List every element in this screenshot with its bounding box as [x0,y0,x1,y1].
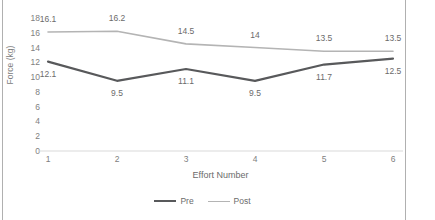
series-line-pre [48,59,393,81]
series-line-post [48,31,393,51]
data-point-label: 16.2 [109,14,126,23]
legend-swatch-pre-icon [154,200,176,202]
legend-swatch-post-icon [208,201,230,202]
chart-legend: PrePost [0,196,405,206]
x-axis-tick-label: 2 [115,154,120,164]
data-point-label: 9.5 [249,89,261,98]
x-axis-title: Effort Number [48,170,393,180]
y-axis-tick-label: 18 [31,14,40,23]
plot-svg [48,18,393,151]
legend-label: Post [234,196,251,206]
y-axis-tick-label: 6 [35,102,40,111]
data-point-label: 13.5 [385,34,402,43]
line-chart-figure: 024681012141618 Force (kg) 12.19.511.19.… [0,0,435,220]
y-axis-tick-label: 8 [35,87,40,96]
x-axis-tick-label: 6 [391,154,396,164]
y-axis-tick-label: 10 [31,73,40,82]
data-point-label: 9.5 [111,89,123,98]
right-border-line [405,0,406,220]
legend-label: Pre [180,196,193,206]
x-axis-tick-label: 3 [184,154,189,164]
data-point-label: 12.5 [385,67,402,76]
y-axis-title: Force (kg) [5,33,15,97]
y-axis-tick-label: 4 [35,117,40,126]
x-axis-tick-label: 4 [253,154,258,164]
data-point-label: 13.5 [316,34,333,43]
data-point-label: 12.1 [40,70,57,79]
x-axis-tick-labels: 123456 [48,154,393,168]
legend-item-post[interactable]: Post [208,196,251,206]
y-axis-tick-label: 14 [31,43,40,52]
y-axis-tick-label: 2 [35,132,40,141]
x-axis-tick-label: 1 [46,154,51,164]
data-point-label: 11.1 [178,77,194,86]
data-point-label: 14 [250,31,259,40]
data-point-label: 11.7 [316,73,332,82]
y-axis-tick-label: 16 [31,28,40,37]
y-axis-tick-label: 12 [31,58,40,67]
data-point-label: 14.5 [178,27,195,36]
plot-area: 12.19.511.19.511.712.516.116.214.51413.5… [48,18,393,151]
data-point-label: 16.1 [40,15,57,24]
x-axis-tick-label: 5 [322,154,327,164]
legend-item-pre[interactable]: Pre [154,196,193,206]
